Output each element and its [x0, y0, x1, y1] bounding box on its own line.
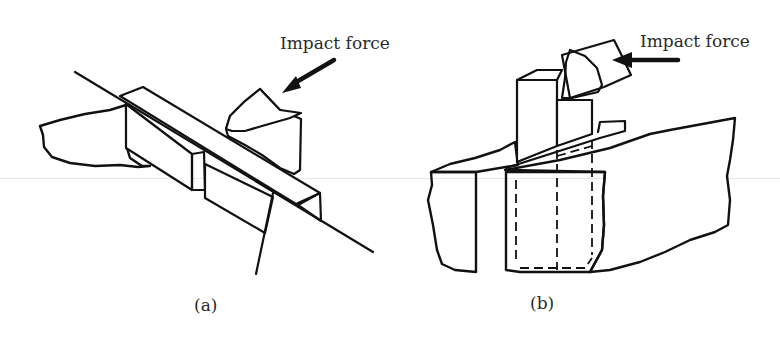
vise-left-section: [428, 172, 476, 272]
striker-top-face: [226, 89, 301, 131]
izod-specimen-top: [517, 70, 562, 80]
izod-specimen-side: [557, 100, 592, 146]
vise-left-jaw-top: [431, 142, 518, 172]
impact-force-label-b: Impact force: [640, 31, 750, 51]
panel-a-drawing: [40, 60, 373, 274]
panel-a-caption: (a): [194, 295, 217, 315]
impact-force-label-a: Impact force: [280, 33, 390, 53]
panel-b-caption: (b): [530, 293, 554, 313]
hidden-edge-bottom: [520, 258, 592, 268]
panel-b-drawing: [428, 40, 735, 272]
impact-arrow-a: [282, 60, 334, 93]
specimen-notch: [192, 152, 205, 190]
vise-right-section: [506, 172, 605, 272]
izod-specimen-front: [517, 80, 557, 162]
support-edge-line: [75, 72, 373, 252]
